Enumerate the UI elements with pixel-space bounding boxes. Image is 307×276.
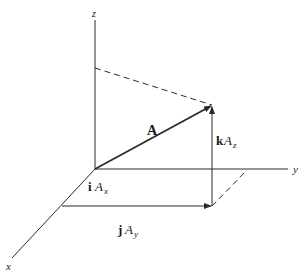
vector-diagram: z y x A i A x j A y k A z [0, 0, 307, 276]
j-component-label: j A y [117, 222, 138, 239]
z-axis-label: z [91, 8, 96, 19]
svg-text:z: z [232, 140, 237, 150]
y-axis-label: y [292, 163, 298, 175]
y-projection-dashed [212, 170, 247, 206]
svg-text:y: y [133, 229, 138, 239]
svg-text:A: A [94, 179, 103, 194]
svg-text:j: j [117, 222, 122, 237]
svg-text:x: x [103, 186, 108, 196]
svg-text:A: A [124, 222, 133, 237]
vector-a-label: A [147, 123, 158, 138]
i-component-label: i A x [88, 179, 108, 196]
z-projection-dashed [95, 68, 212, 105]
x-axis [12, 169, 95, 258]
k-component-label: k A z [216, 133, 237, 150]
svg-text:k: k [216, 133, 224, 148]
svg-text:i: i [88, 179, 92, 194]
svg-text:A: A [223, 133, 232, 148]
x-axis-label: x [5, 260, 11, 272]
